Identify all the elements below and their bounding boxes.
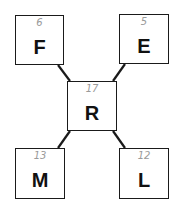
node-m-label: M: [16, 169, 64, 192]
node-r-number: 17: [68, 83, 116, 94]
node-l: 12 L: [119, 148, 169, 199]
node-f-number: 6: [16, 17, 63, 28]
edge-f-r: [58, 65, 70, 81]
node-r-label: R: [68, 102, 116, 125]
node-m-number: 13: [16, 150, 64, 161]
node-f: 6 F: [15, 15, 64, 65]
node-l-number: 12: [120, 150, 168, 161]
node-f-label: F: [16, 36, 63, 59]
node-l-label: L: [120, 169, 168, 192]
node-e-label: E: [120, 35, 168, 58]
node-r: 17 R: [67, 81, 117, 131]
node-m: 13 M: [15, 148, 65, 199]
edge-m-r: [58, 131, 70, 148]
edge-e-r: [113, 64, 125, 81]
edge-l-r: [113, 131, 125, 148]
node-e-number: 5: [120, 16, 168, 27]
node-e: 5 E: [119, 14, 169, 64]
